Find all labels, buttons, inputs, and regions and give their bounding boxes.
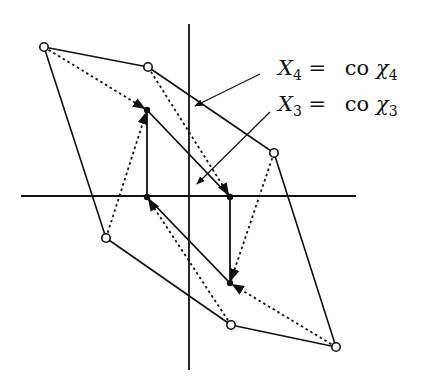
inner-vertex-dot-4 — [144, 194, 150, 200]
label-x3-var: X — [278, 92, 293, 116]
label-x4-chi: χ — [376, 56, 389, 80]
dotted-arrow-6 — [106, 113, 146, 238]
outer-vertex-circle-6 — [102, 234, 110, 242]
label-x4-eq: = — [309, 56, 327, 80]
dotted-arrow-4 — [233, 285, 336, 347]
label-x4: X4 = co χ4 — [278, 56, 398, 80]
label-x3-eq: = — [309, 92, 327, 116]
label-x3-chi-sub: 3 — [389, 103, 398, 119]
inner-vertex-dot-2 — [227, 194, 233, 200]
diagram-canvas: X4 = co χ4 X3 = co χ3 — [0, 0, 432, 390]
leader-line-x3 — [197, 112, 270, 184]
label-x3-op: co — [345, 92, 369, 116]
outer-vertex-circle-5 — [227, 321, 235, 329]
leader-line-x4 — [195, 74, 260, 106]
vertex-markers — [40, 43, 340, 351]
label-x3-var-sub: 3 — [293, 103, 302, 119]
outer-vertex-circle-2 — [144, 63, 152, 71]
outer-vertex-circle-3 — [270, 149, 278, 157]
label-x3: X3 = co χ3 — [278, 92, 398, 116]
outer-vertex-circle-1 — [40, 43, 48, 51]
label-x4-var: X — [278, 56, 293, 80]
dotted-arrow-3 — [231, 153, 274, 280]
label-x4-chi-sub: 4 — [389, 67, 398, 83]
label-x4-var-sub: 4 — [293, 67, 302, 83]
label-leader-lines — [195, 74, 270, 184]
label-x4-op: co — [345, 56, 369, 80]
outer-vertex-circle-4 — [332, 343, 340, 351]
label-x3-chi: χ — [376, 92, 389, 116]
inner-vertex-dot-3 — [227, 280, 233, 286]
inner-vertex-dot-1 — [144, 107, 150, 113]
